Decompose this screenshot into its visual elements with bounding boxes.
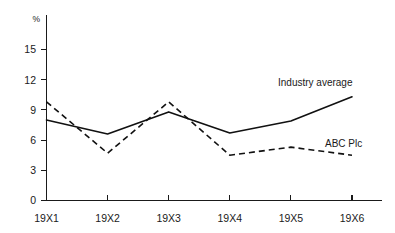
y-tick-label: 9 <box>30 104 36 116</box>
y-tick-label: 6 <box>30 134 36 146</box>
series-label-industry-average: Industry average <box>278 77 353 88</box>
y-tick-label: 12 <box>24 74 36 86</box>
x-tick-label: 19X6 <box>340 212 365 224</box>
x-tick-label: 19X2 <box>95 212 120 224</box>
series-line-abc-plc <box>47 102 353 155</box>
series-label-abc-plc: ABC Plc <box>325 138 362 149</box>
x-tick-label: 19X4 <box>218 212 243 224</box>
x-tick-label: 19X3 <box>156 212 181 224</box>
line-chart: % 03691215 19X119X219X319X419X519X6 Indu… <box>0 0 395 233</box>
y-tick-label: 0 <box>30 194 36 206</box>
chart-canvas: % 03691215 19X119X219X319X419X519X6 Indu… <box>0 0 395 233</box>
y-tick-label: 3 <box>30 164 36 176</box>
y-axis-ticks: 03691215 <box>24 43 46 206</box>
x-tick-label: 19X5 <box>279 212 304 224</box>
x-tick-label: 19X1 <box>34 212 59 224</box>
y-tick-label: 15 <box>24 43 36 55</box>
y-axis-unit-label: % <box>32 14 40 24</box>
x-axis-ticks: 19X119X219X319X419X519X6 <box>34 195 364 224</box>
